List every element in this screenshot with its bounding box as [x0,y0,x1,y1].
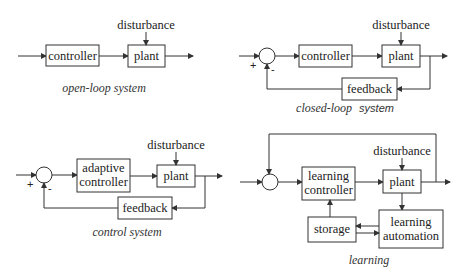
control-systems-diagram: controller plant disturbance open-loop s… [0,0,463,273]
disturbance-label: disturbance [372,18,430,32]
open-loop-caption: open-loop system [62,81,146,95]
learning-caption: learning [349,253,390,267]
disturbance-label: disturbance [117,18,175,32]
learning-controller-label-line2: controller [304,183,353,197]
controller-label: controller [301,49,350,63]
closed-loop-diagram: + - controller plant disturbance feedbac… [239,18,447,115]
adaptive-caption: control system [92,225,162,239]
summing-junction [259,48,275,64]
feedback-label: feedback [347,82,393,96]
plant-label: plant [134,49,160,63]
adaptive-controller-label-line1: adaptive [82,161,125,175]
controller-label: controller [48,49,97,63]
adaptive-controller-label-line2: controller [79,175,128,189]
disturbance-label: disturbance [373,144,431,158]
closed-loop-caption-a: closed-loop [296,101,352,115]
plant-label: plant [390,175,416,189]
feedback-label: feedback [122,201,168,215]
minus-sign: - [48,182,52,194]
closed-loop-caption: closed-loop system [296,98,394,115]
plant-label: plant [389,49,415,63]
learning-automation-label-line1: learning [391,215,433,229]
adaptive-control-diagram: + - adaptive controller plant disturbanc… [16,138,222,239]
plus-sign: + [250,59,256,71]
summing-junction [262,174,278,190]
learning-diagram: learning controller plant disturbance le… [240,134,450,267]
open-loop-diagram: controller plant disturbance open-loop s… [18,18,193,95]
learning-controller-label-line1: learning [308,169,350,183]
disturbance-label: disturbance [147,138,205,152]
closed-loop-caption-b: system [359,102,394,114]
plus-sign: + [27,178,33,190]
storage-label: storage [314,222,351,236]
minus-sign: - [271,63,275,75]
feedback-to-sum-line [267,64,342,89]
summing-junction [36,167,52,183]
plant-label: plant [164,169,190,183]
learning-automation-label-line2: automation [383,229,440,243]
